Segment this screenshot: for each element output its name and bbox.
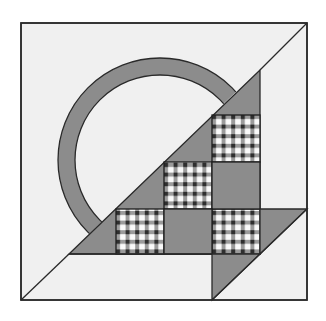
gingham-square-top [212, 115, 260, 162]
gingham-square-middle [164, 162, 212, 209]
solid-square-bottom-middle [164, 209, 212, 254]
gingham-square-bottom-left [116, 209, 164, 254]
solid-square-middle-right [212, 162, 260, 209]
quilt-block-diagram [0, 0, 326, 321]
gingham-square-bottom-right [212, 209, 260, 254]
